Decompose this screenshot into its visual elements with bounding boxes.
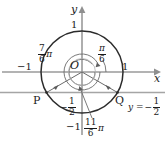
angle-11pi-over-6-numerator: 11: [84, 118, 97, 127]
point-p-label: P: [33, 95, 40, 106]
angle-11pi-over-6-denominator: 6: [84, 129, 97, 138]
neg-half-numerator: 1: [68, 97, 76, 106]
y-axis-label: y: [71, 4, 77, 15]
radius-p-arrow-icon: [53, 85, 58, 90]
x-tick-label-neg-one: −1: [17, 62, 32, 72]
angle-pi-over-6-denominator: 6: [98, 55, 106, 64]
angle-11pi-over-6-label: 11 6 π: [84, 118, 104, 138]
angle-11pi-over-6-suffix: π: [97, 124, 103, 133]
radius-q-arrow-icon: [106, 85, 111, 90]
y-tick-label-neg-half: − 1 2: [60, 97, 76, 117]
origin-label: O: [70, 60, 79, 71]
angle-pi-over-6-numerator: π: [98, 44, 106, 53]
x-axis-label: x: [154, 73, 160, 84]
unit-circle-figure: y x O 1 −1 −1 1 P Q π 6 7 6 π 11 6 π −: [0, 0, 165, 141]
y-tick-label-neg-one: −1: [66, 122, 81, 132]
x-tick-label-one: 1: [122, 62, 128, 72]
line-equation-label: y = − 1 2: [128, 97, 160, 117]
angle-7pi-over-6-suffix: π: [46, 50, 52, 59]
line-equation-numerator: 1: [153, 97, 161, 106]
angle-7pi-over-6-denominator: 6: [38, 55, 46, 64]
line-equation-lhs: y =: [128, 103, 145, 112]
line-equation-sign: −: [145, 103, 153, 112]
angle-pi-over-6-label: π 6: [98, 44, 106, 64]
neg-half-denominator: 2: [68, 108, 76, 117]
angle-7pi-over-6-label: 7 6 π: [38, 44, 52, 64]
point-p-marker: [45, 91, 48, 94]
y-tick-label-one: 1: [71, 20, 77, 30]
point-q-label: Q: [115, 95, 124, 106]
neg-half-sign: −: [60, 103, 68, 112]
angle-7pi-over-6-numerator: 7: [38, 44, 46, 53]
line-equation-denominator: 2: [153, 108, 161, 117]
y-axis-arrow-icon: [79, 6, 86, 13]
